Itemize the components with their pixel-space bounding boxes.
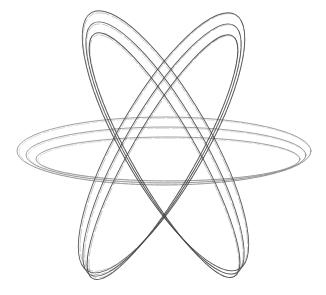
ring-ellipse: [67, 18, 262, 292]
figure-canvas: [0, 0, 326, 295]
tilted-rings-b: [47, 0, 273, 295]
interlocking-rings-drawing: [0, 0, 326, 295]
horizontal-rings: [17, 117, 311, 185]
ring-ellipse: [59, 7, 266, 292]
tilted-rings-a: [53, 0, 279, 294]
